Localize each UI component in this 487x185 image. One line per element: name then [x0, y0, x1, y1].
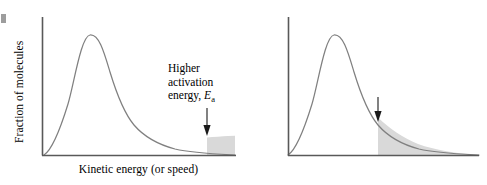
annotation-higher-activation-energy: Higher activation energy, Ea — [168, 62, 215, 107]
panel-higher-activation-energy: Fraction of molecules Kinetic energy (or… — [0, 0, 244, 185]
annotation-arrow-head-left — [203, 125, 210, 136]
shaded-region-right — [378, 118, 478, 156]
figure-root: Fraction of molecules Kinetic energy (or… — [0, 0, 487, 185]
activation-energy-subscript: a — [211, 94, 215, 104]
panel-lower-activation-energy: Fraction of molecules Kinetic energy (or… — [243, 0, 487, 185]
annotation-line-3: energy, Ea — [168, 89, 215, 107]
shaded-region-left — [207, 136, 235, 155]
annotation-line-2: activation — [168, 76, 215, 90]
x-axis-title-left: Kinetic energy (or speed) — [42, 163, 235, 175]
y-axis-title-left: Fraction of molecules — [13, 41, 25, 143]
annotation-energy-word: energy, — [168, 89, 204, 101]
plot-area-right — [243, 0, 487, 185]
annotation-line-1: Higher — [168, 62, 215, 76]
